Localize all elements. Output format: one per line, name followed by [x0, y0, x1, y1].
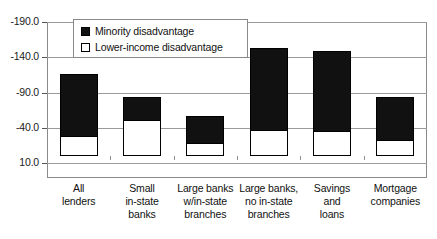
bar-group [300, 22, 363, 178]
x-axis-label-line: Large banks [170, 182, 241, 195]
x-axis-label-line: Large banks, [233, 182, 304, 195]
bar-lower-income-disadvantage [61, 136, 97, 155]
bar-lower-income-disadvantage [124, 120, 160, 155]
x-axis-label-line: companies [360, 195, 431, 208]
y-axis-label-4: 10.0 [19, 157, 39, 168]
x-axis-label-line: banks [106, 208, 177, 221]
x-tick-mark [110, 156, 111, 160]
x-axis-label-line: Savings [296, 182, 367, 195]
bar-minority-disadvantage [60, 74, 98, 156]
x-axis-label-line: w/in-state [170, 195, 241, 208]
bar-minority-disadvantage [376, 97, 414, 156]
y-axis-label-1: -140.0 [10, 51, 39, 62]
x-tick-mark [237, 156, 238, 160]
x-axis-category-label: Alllenders [43, 182, 114, 208]
legend-item-lower-income: Lower-income disadvantage [81, 39, 242, 55]
bar-minority-disadvantage [250, 48, 288, 156]
x-tick-mark [174, 156, 175, 160]
x-axis-label-line: in-state [106, 195, 177, 208]
y-axis-label-3: -40.0 [16, 122, 39, 133]
legend-swatch-hollow-icon [81, 43, 90, 52]
chart-legend: Minority disadvantage Lower-income disad… [73, 19, 248, 58]
bar-lower-income-disadvantage [251, 130, 287, 155]
x-axis-label-line: loans [296, 208, 367, 221]
x-axis-label-line: lenders [43, 195, 114, 208]
bar-chart: -190.0 -140.0 -90.0 -40.0 10.0 Minority … [0, 0, 437, 239]
bar-minority-disadvantage [123, 97, 161, 156]
legend-item-minority: Minority disadvantage [81, 23, 242, 39]
bar-minority-disadvantage [313, 51, 351, 156]
x-axis-category-label: Mortgagecompanies [360, 182, 431, 208]
x-axis-category-label: Smallin-statebanks [106, 182, 177, 221]
x-axis-category-label: Savingsandloans [296, 182, 367, 221]
bar-group [364, 22, 427, 178]
x-axis-label-line: Mortgage [360, 182, 431, 195]
bar-lower-income-disadvantage [377, 140, 413, 155]
y-axis-label-0: -190.0 [10, 16, 39, 27]
x-axis-label-line: branches [233, 208, 304, 221]
x-tick-mark [300, 156, 301, 160]
x-axis-category-label: Large banks,no in-statebranches [233, 182, 304, 221]
x-axis-label-line: no in-state [233, 195, 304, 208]
legend-swatch-filled-icon [81, 27, 90, 36]
legend-label-minority: Minority disadvantage [95, 25, 194, 37]
x-axis-category-label: Large banksw/in-statebranches [170, 182, 241, 221]
x-axis-label-line: and [296, 195, 367, 208]
bar-lower-income-disadvantage [314, 131, 350, 155]
bar-minority-disadvantage [186, 116, 224, 156]
x-axis-label-line: All [43, 182, 114, 195]
x-tick-mark [364, 156, 365, 160]
x-axis-labels: AlllendersSmallin-statebanksLarge banksw… [47, 182, 427, 234]
x-axis-label-line: branches [170, 208, 241, 221]
bar-lower-income-disadvantage [187, 143, 223, 155]
legend-label-lower-income: Lower-income disadvantage [95, 41, 223, 53]
y-axis-label-2: -90.0 [16, 87, 39, 98]
x-axis-label-line: Small [106, 182, 177, 195]
